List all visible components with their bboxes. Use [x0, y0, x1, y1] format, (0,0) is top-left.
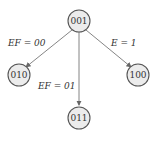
- node-001: 001: [68, 10, 90, 32]
- state-tree-diagram: EF = 00 EF = 01 E = 1 001 010 011 100: [0, 0, 157, 141]
- svg-text:100: 100: [129, 70, 146, 80]
- edge-001-010: [26, 30, 72, 67]
- node-010: 010: [8, 64, 30, 86]
- node-100: 100: [127, 64, 149, 86]
- node-011: 011: [68, 107, 90, 129]
- edge-label-ef-00: EF = 00: [7, 38, 46, 48]
- svg-text:001: 001: [70, 16, 87, 26]
- edge-label-ef-01: EF = 01: [37, 81, 76, 91]
- svg-text:010: 010: [10, 70, 27, 80]
- edge-label-e-1: E = 1: [110, 38, 137, 48]
- svg-text:011: 011: [70, 113, 87, 123]
- edge-001-100: [86, 30, 131, 67]
